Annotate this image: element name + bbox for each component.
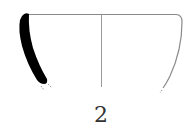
break-mark-left	[41, 84, 52, 90]
exterior-outline	[163, 15, 182, 89]
break-mark-right	[160, 90, 162, 93]
section-profile	[19, 13, 47, 84]
figure-number-label: 2	[0, 102, 191, 128]
